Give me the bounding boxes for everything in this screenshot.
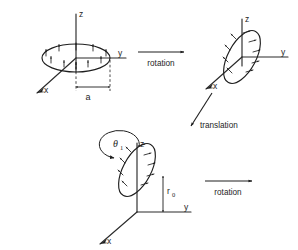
axis-label-y-panel3: y <box>184 202 189 212</box>
radius-label-a: a <box>85 92 90 102</box>
operation-rotation-2: rotation <box>205 181 252 197</box>
axis-label-y-panel2: y <box>281 47 286 57</box>
panel-translated-loop: z y x θ 1 r 0 <box>99 131 191 246</box>
operation-translation: translation <box>191 93 238 130</box>
figure-container: z y x a <box>0 0 298 250</box>
height-offset-symbol: r <box>167 186 170 196</box>
axis-label-y-panel1: y <box>118 48 123 58</box>
operation-rotation-1: rotation <box>138 52 184 68</box>
theta-subscript: 1 <box>120 144 123 151</box>
operation-label-rotation-2: rotation <box>214 188 242 197</box>
height-offset-subscript: 0 <box>172 191 175 198</box>
axis-label-x-panel2: x <box>213 81 218 91</box>
x-axis-panel3 <box>100 212 137 244</box>
theta-symbol: θ <box>113 138 118 149</box>
operation-label-rotation-1: rotation <box>147 59 175 68</box>
operation-label-translation: translation <box>200 121 238 130</box>
axis-label-x-panel1: x <box>44 85 49 95</box>
panel-initial-loop: z y x a <box>37 9 126 102</box>
axis-label-x-panel3: x <box>107 236 112 246</box>
panel-rotated-loop: z y x <box>206 14 288 91</box>
axis-label-z-panel1: z <box>79 9 83 19</box>
axis-label-z-panel2: z <box>245 14 249 24</box>
loop-transformation-figure: z y x a <box>0 0 298 250</box>
x-axis-panel1 <box>37 58 76 93</box>
